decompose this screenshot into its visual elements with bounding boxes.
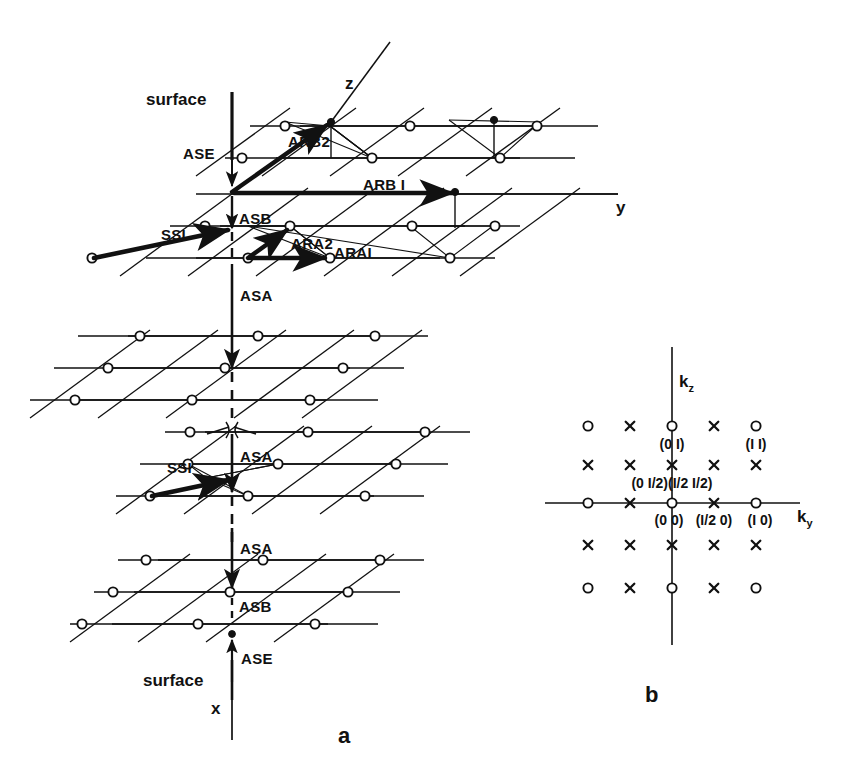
x-axis-stack bbox=[207, 92, 256, 740]
site-circle bbox=[751, 421, 760, 430]
index-halfhalf: (I/2 I/2) bbox=[668, 475, 712, 491]
site-cross bbox=[626, 461, 635, 470]
index-11: (I I) bbox=[746, 436, 767, 452]
site-cross bbox=[752, 541, 761, 550]
figure-root: surface z y ASE ARB2 ARB I ASB SSI ARA2 … bbox=[0, 0, 867, 776]
ky-sub: y bbox=[806, 517, 813, 529]
label-asb-bottom: ASB bbox=[239, 598, 272, 615]
x-axis-label: x bbox=[211, 699, 221, 718]
kz-sub: z bbox=[688, 382, 694, 394]
panel-b-index-labels: (0 I) (I I) (0 I/2) (I/2 I/2) (0 0) (I/2… bbox=[631, 436, 772, 528]
panel-b-label: b bbox=[645, 682, 658, 707]
label-ase-bottom: ASE bbox=[241, 650, 273, 667]
panel-a: surface z y ASE ARB2 ARB I ASB SSI ARA2 … bbox=[30, 42, 626, 748]
site-cross bbox=[584, 541, 593, 550]
site-cross bbox=[710, 541, 719, 550]
z-axis-line bbox=[331, 42, 390, 122]
label-asa-3: ASA bbox=[240, 540, 273, 557]
reciprocal-row-bottom bbox=[583, 583, 760, 592]
site-cross bbox=[710, 584, 719, 593]
panel-a-labels: surface z y ASE ARB2 ARB I ASB SSI ARA2 … bbox=[143, 74, 626, 748]
label-arb1: ARB I bbox=[363, 176, 405, 193]
label-arb2: ARB2 bbox=[288, 133, 330, 150]
site-cross bbox=[626, 541, 635, 550]
label-asa-1: ASA bbox=[240, 287, 273, 304]
index-01: (0 I) bbox=[660, 436, 685, 452]
panel-b: kz ky (0 I) (I I) (0 I/2) (I/2 I/2) (0 0… bbox=[545, 347, 813, 707]
site-cross bbox=[710, 461, 719, 470]
index-half0: (I/2 0) bbox=[696, 512, 733, 528]
label-asa-2: ASA bbox=[240, 448, 273, 465]
label-ara2: ARA2 bbox=[291, 235, 333, 252]
label-ase-top: ASE bbox=[183, 145, 215, 162]
site-cross bbox=[626, 422, 635, 431]
label-ssi-mid: SSI bbox=[167, 459, 192, 476]
index-00: (0 0) bbox=[655, 512, 684, 528]
site-cross bbox=[752, 461, 761, 470]
z-axis-label: z bbox=[345, 74, 354, 93]
site-circle bbox=[583, 583, 592, 592]
site-circle bbox=[583, 421, 592, 430]
reciprocal-row-top bbox=[583, 421, 760, 430]
lattice-plane-3 bbox=[30, 330, 428, 418]
panel-a-label: a bbox=[338, 723, 351, 748]
label-ssi-top: SSI bbox=[161, 226, 186, 243]
site-cross bbox=[626, 584, 635, 593]
arrow-ssi-mid bbox=[152, 480, 228, 496]
site-circle bbox=[751, 583, 760, 592]
site-circle bbox=[667, 498, 676, 507]
lattice-plane-1 bbox=[196, 108, 598, 176]
ky-axis-label: ky bbox=[797, 507, 813, 529]
site-cross bbox=[710, 422, 719, 431]
surface-label-top: surface bbox=[146, 90, 206, 109]
surface-label-bottom: surface bbox=[143, 671, 203, 690]
kz-axis-label: kz bbox=[679, 372, 694, 394]
site-circle bbox=[751, 498, 760, 507]
index-10: (I 0) bbox=[748, 512, 773, 528]
site-cross bbox=[584, 461, 593, 470]
label-asb-top: ASB bbox=[239, 210, 272, 227]
site-circle bbox=[667, 583, 676, 592]
diagram-canvas: surface z y ASE ARB2 ARB I ASB SSI ARA2 … bbox=[0, 0, 867, 776]
label-ara1: ARAI bbox=[334, 244, 372, 261]
site-circle bbox=[667, 421, 676, 430]
y-axis-label: y bbox=[616, 198, 626, 217]
site-circle bbox=[583, 498, 592, 507]
index-0half: (0 I/2) bbox=[631, 475, 668, 491]
